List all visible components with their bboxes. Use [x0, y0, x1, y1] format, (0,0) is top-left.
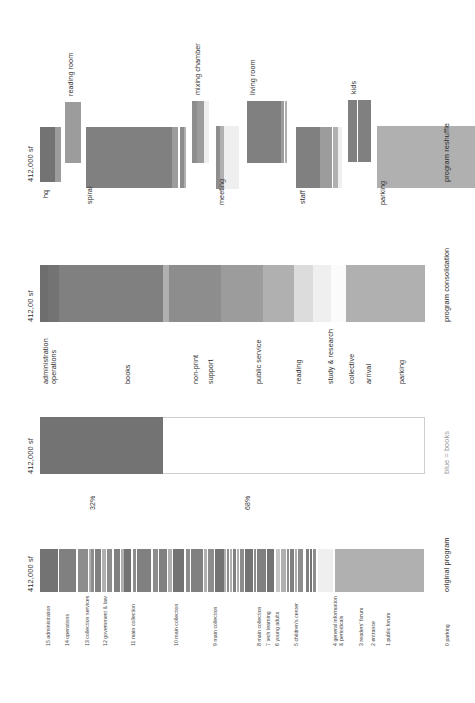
program-reshuffle-label: staff [299, 190, 307, 204]
reshuffle-segment [86, 127, 172, 188]
bar-segment [245, 549, 253, 592]
program-reshuffle-label: mixing chamber [194, 43, 202, 95]
original-program-bar [40, 549, 425, 592]
label-line: operations [50, 350, 58, 384]
original-program-title: original program [444, 537, 450, 592]
program-reshuffle-block [65, 102, 80, 163]
reshuffle-segment [40, 127, 55, 182]
label-line: 412,000 sf [28, 556, 34, 592]
label-line: study & research [327, 329, 335, 384]
original-program-label: 11 main collection [130, 604, 136, 646]
program-consolidation-bar [40, 265, 425, 322]
original-program-label: 4 general information& periodicals [332, 596, 344, 646]
label-line: meeting [218, 179, 226, 205]
program-consolidation-label: books [124, 364, 132, 384]
label-line: hq [42, 190, 50, 198]
label-line: 12 government & law [102, 596, 108, 646]
original-program-label: 15 administration [45, 606, 51, 646]
original-program-label: 8 main collection [256, 606, 262, 646]
label-line: 7 tech learning [265, 611, 271, 646]
label-line: staff [299, 190, 307, 204]
bar-segment [267, 549, 274, 592]
bar-segment [159, 549, 167, 592]
label-line: parking [379, 181, 387, 205]
label-line: support [207, 360, 215, 384]
program-reshuffle-label: spiral [86, 186, 94, 204]
label-line: 68% [245, 496, 251, 510]
consolidation-segment [48, 265, 60, 322]
bar-segment [215, 549, 224, 592]
reshuffle-segment [65, 102, 80, 163]
program-reshuffle-label: hq [42, 190, 50, 198]
program-consolidation-label: reading [295, 360, 303, 384]
label-line: reading [295, 360, 303, 384]
original-program-label: 7 tech learning [265, 611, 271, 646]
consolidation-segment [313, 265, 330, 322]
bar-segment [191, 549, 203, 592]
consolidation-segment [294, 265, 313, 322]
program-reshuffle-block [247, 101, 287, 163]
bar-segment [318, 549, 334, 592]
bar-segment [40, 549, 58, 592]
label-line: & periodicals [338, 596, 344, 646]
label-line: program consolidation [444, 248, 450, 322]
program-reshuffle-block [192, 101, 209, 163]
books-share-title: blue = books [444, 431, 450, 474]
program-consolidation-title: program consolidation [444, 248, 450, 322]
label-line: 0 parking [444, 624, 450, 646]
program-reshuffle-block [348, 100, 371, 162]
reshuffle-segment [320, 127, 332, 188]
program-consolidation-label: parking [398, 360, 406, 384]
program-consolidation-label: collective [348, 354, 356, 384]
books-share-bar [40, 417, 425, 474]
original-program-label: 13 collection services [84, 596, 90, 646]
bar-segment [257, 549, 266, 592]
consolidation-segment [59, 265, 163, 322]
program-reshuffle-label: meeting [218, 179, 226, 205]
reshuffle-segment [296, 127, 320, 188]
program-reshuffle-block [40, 127, 61, 182]
label-line: 3 readers' forum [358, 608, 364, 646]
consolidation-segment [221, 265, 263, 322]
bar-segment [124, 549, 131, 592]
label-line: public service [255, 339, 263, 384]
label-line: 2 entrance [370, 621, 376, 646]
reshuffle-segment [184, 127, 187, 188]
label-line: books [124, 364, 132, 384]
label-line: mixing chamber [194, 43, 202, 95]
reshuffle-segment [338, 127, 343, 188]
original-program-label: 10 main collection [173, 604, 179, 646]
label-line: 6 young adults [274, 612, 280, 646]
label-line: spiral [86, 186, 94, 204]
label-line: 412,00 sf [28, 290, 34, 322]
label-line: arrival [365, 364, 373, 384]
program-reshuffle-block [86, 127, 186, 188]
bar-segment [59, 549, 76, 592]
program-consolidation-label: support [207, 360, 215, 384]
label-line: 412,000 sf [28, 438, 34, 474]
books-empty-segment [163, 417, 425, 474]
program-reshuffle-block [296, 127, 342, 188]
consolidation-segment [169, 265, 221, 322]
original-program-label: 6 young adults [274, 612, 280, 646]
label-line: non-print [192, 355, 200, 384]
books-filled-segment [40, 417, 163, 474]
program-consolidation-total-label: 412,00 sf [28, 290, 34, 322]
program-reshuffle-label: parking [379, 181, 387, 205]
original-program-label: 5 children's center [293, 603, 299, 646]
books-empty-pct-label: 68% [245, 496, 251, 510]
program-reshuffle-label: kids [350, 81, 358, 94]
consolidation-segment [263, 265, 294, 322]
program-reshuffle-total-label: 412,000 sf [28, 146, 34, 182]
label-line: living room [249, 59, 257, 95]
bar-segment [78, 549, 88, 592]
label-line: 8 main collection [256, 606, 262, 646]
original-program-label: 1 public forum [385, 613, 391, 646]
consolidation-segment [40, 265, 48, 322]
label-line: 13 collection services [84, 596, 90, 646]
label-line: 32% [90, 496, 96, 510]
program-consolidation-label: arrival [365, 364, 373, 384]
bar-segment [335, 549, 424, 592]
program-reshuffle-label: reading room [67, 53, 75, 96]
